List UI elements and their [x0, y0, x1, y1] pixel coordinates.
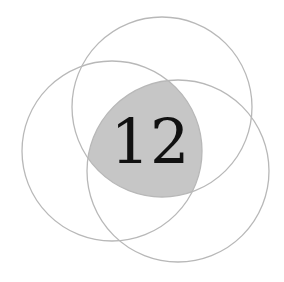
venn-diagram: 12 — [0, 0, 284, 282]
center-count-label: 12 — [111, 105, 190, 178]
